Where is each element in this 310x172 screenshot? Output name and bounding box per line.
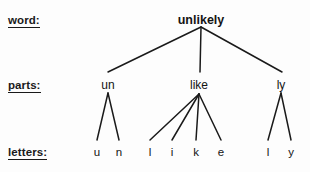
branch-part-like-to-letter-e bbox=[199, 94, 221, 140]
tree-node-letter-u1: u bbox=[94, 146, 100, 158]
row-label-parts: parts: bbox=[8, 79, 41, 93]
branch-part-like-to-letter-i bbox=[172, 94, 199, 140]
branch-part-ly-to-letter-y bbox=[281, 93, 291, 140]
branch-part-like-to-letter-k bbox=[196, 94, 199, 140]
tree-node-part-ly: ly bbox=[277, 79, 286, 91]
tree-node-part-like: like bbox=[190, 79, 208, 91]
tree-node-letter-k: k bbox=[193, 146, 199, 158]
tree-node-letter-i: i bbox=[171, 146, 174, 158]
branch-root-to-part-like bbox=[200, 27, 201, 72]
row-label-letters: letters: bbox=[8, 146, 47, 160]
morphology-tree-diagram: word:parts:letters: unlikelyunlikelyunli… bbox=[0, 0, 310, 172]
tree-node-root: unlikely bbox=[178, 14, 225, 26]
branch-part-un-to-letter-u1 bbox=[97, 93, 108, 140]
branch-root-to-part-ly bbox=[201, 27, 282, 72]
branch-part-ly-to-letter-l2 bbox=[268, 93, 281, 140]
tree-node-letter-l1: l bbox=[149, 146, 152, 158]
branch-part-like-to-letter-l1 bbox=[150, 94, 199, 140]
tree-node-part-un: un bbox=[101, 79, 114, 91]
tree-node-letter-e: e bbox=[218, 146, 224, 158]
branch-part-un-to-letter-n bbox=[108, 93, 119, 140]
tree-node-letter-n: n bbox=[116, 146, 122, 158]
branch-root-to-part-un bbox=[108, 27, 201, 72]
tree-node-letter-l2: l bbox=[267, 146, 270, 158]
tree-node-letter-y: y bbox=[288, 146, 294, 158]
row-label-word: word: bbox=[8, 14, 40, 28]
